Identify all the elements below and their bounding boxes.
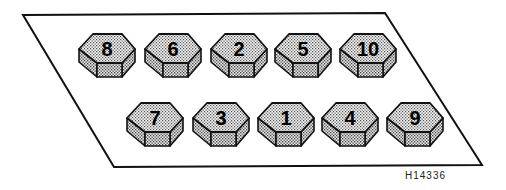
bolt-sequence-number: 9: [409, 107, 420, 129]
bolt-sequence-number: 8: [101, 38, 112, 60]
bolt-nut-4: 4: [322, 103, 378, 146]
reference-code: H14336: [405, 170, 446, 181]
bolt-nut-7: 7: [127, 103, 183, 146]
bolt-sequence-number: 10: [357, 38, 379, 60]
bolt-nut-3: 3: [193, 103, 249, 146]
bolt-nut-1: 1: [258, 103, 314, 146]
bolt-nut-5: 5: [275, 34, 331, 77]
bolt-sequence-number: 4: [344, 107, 356, 129]
bolt-nut-6: 6: [145, 34, 201, 77]
bolt-sequence-number: 2: [233, 38, 244, 60]
bolt-sequence-number: 7: [149, 107, 160, 129]
bolt-sequence-number: 1: [280, 107, 291, 129]
bolt-sequence-number: 5: [297, 38, 308, 60]
bolt-sequence-number: 3: [215, 107, 226, 129]
bolt-nut-2: 2: [211, 34, 267, 77]
bolt-nut-9: 9: [387, 103, 443, 146]
bolt-nut-10: 10: [340, 34, 396, 77]
diagram-canvas: 86251073149 H14336: [0, 0, 506, 190]
bolt-sequence-number: 6: [167, 38, 178, 60]
bolt-nut-8: 8: [79, 34, 135, 77]
bolt-sequence-diagram: 86251073149: [0, 0, 506, 190]
